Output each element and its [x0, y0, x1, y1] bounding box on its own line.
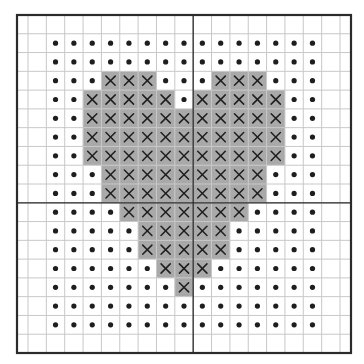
dot-icon — [53, 191, 58, 196]
dot-icon — [53, 116, 58, 121]
dot-icon — [90, 247, 95, 252]
dot-icon — [273, 303, 278, 308]
dot-icon — [236, 322, 241, 327]
dot-icon — [145, 41, 150, 46]
dot-icon — [292, 97, 297, 102]
dot-icon — [273, 172, 278, 177]
dot-icon — [273, 78, 278, 83]
dot-icon — [292, 78, 297, 83]
dot-icon — [90, 322, 95, 327]
dot-icon — [292, 116, 297, 121]
dot-icon — [108, 59, 113, 64]
dot-icon — [255, 41, 260, 46]
dot-icon — [53, 303, 58, 308]
dot-icon — [255, 247, 260, 252]
dot-icon — [292, 134, 297, 139]
dot-icon — [126, 303, 131, 308]
dot-icon — [90, 78, 95, 83]
grid-lines-layer — [17, 15, 351, 353]
dot-icon — [273, 322, 278, 327]
dot-icon — [310, 228, 315, 233]
dot-icon — [273, 266, 278, 271]
dot-icon — [126, 247, 131, 252]
dot-icon — [71, 78, 76, 83]
dot-icon — [71, 285, 76, 290]
dot-icon — [53, 97, 58, 102]
dot-icon — [255, 303, 260, 308]
dot-icon — [236, 41, 241, 46]
dot-icon — [310, 285, 315, 290]
dot-icon — [273, 210, 278, 215]
dot-icon — [53, 228, 58, 233]
dot-icon — [163, 59, 168, 64]
dot-icon — [310, 191, 315, 196]
dot-icon — [292, 210, 297, 215]
dot-icon — [53, 210, 58, 215]
dot-icon — [126, 266, 131, 271]
dot-icon — [200, 59, 205, 64]
dot-icon — [273, 247, 278, 252]
dot-icon — [200, 41, 205, 46]
dot-icon — [273, 191, 278, 196]
dot-icon — [71, 322, 76, 327]
dot-icon — [53, 247, 58, 252]
dot-icon — [71, 172, 76, 177]
dot-icon — [181, 97, 186, 102]
dot-icon — [71, 97, 76, 102]
dot-icon — [181, 322, 186, 327]
dot-icon — [273, 41, 278, 46]
pattern-grid — [0, 0, 364, 364]
dot-icon — [218, 266, 223, 271]
dot-icon — [310, 303, 315, 308]
dot-icon — [236, 285, 241, 290]
dot-icon — [71, 116, 76, 121]
dot-icon — [236, 303, 241, 308]
dot-icon — [145, 266, 150, 271]
dot-icon — [236, 59, 241, 64]
dot-icon — [53, 134, 58, 139]
dot-icon — [71, 303, 76, 308]
dot-icon — [310, 116, 315, 121]
dot-icon — [218, 303, 223, 308]
dot-icon — [108, 322, 113, 327]
dot-icon — [255, 228, 260, 233]
dot-icon — [218, 59, 223, 64]
dot-icon — [310, 59, 315, 64]
dot-icon — [310, 322, 315, 327]
dot-icon — [236, 266, 241, 271]
dot-icon — [108, 210, 113, 215]
dot-icon — [292, 303, 297, 308]
dot-icon — [145, 59, 150, 64]
dot-icon — [71, 266, 76, 271]
dot-icon — [200, 78, 205, 83]
dot-icon — [273, 228, 278, 233]
dot-icon — [163, 41, 168, 46]
dot-icon — [53, 285, 58, 290]
dot-icon — [90, 228, 95, 233]
dot-icon — [273, 285, 278, 290]
dot-icon — [310, 97, 315, 102]
dot-icon — [292, 172, 297, 177]
dot-icon — [200, 303, 205, 308]
dot-icon — [126, 322, 131, 327]
dot-icon — [90, 285, 95, 290]
dot-icon — [126, 285, 131, 290]
dot-icon — [310, 134, 315, 139]
dot-icon — [145, 322, 150, 327]
dot-icon — [292, 153, 297, 158]
dot-icon — [53, 172, 58, 177]
dot-icon — [108, 303, 113, 308]
dot-icon — [108, 228, 113, 233]
dot-icon — [310, 210, 315, 215]
dot-icon — [163, 322, 168, 327]
dot-icon — [71, 228, 76, 233]
dot-icon — [71, 153, 76, 158]
dot-icon — [145, 303, 150, 308]
dot-icon — [90, 191, 95, 196]
dot-icon — [163, 285, 168, 290]
dot-icon — [71, 41, 76, 46]
dot-icon — [255, 266, 260, 271]
dot-icon — [53, 41, 58, 46]
dot-icon — [310, 247, 315, 252]
dot-icon — [71, 247, 76, 252]
